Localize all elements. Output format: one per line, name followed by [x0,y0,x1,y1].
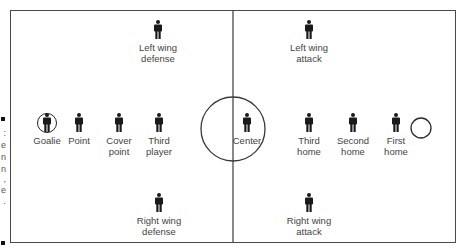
player-center: Center [212,113,282,146]
person-icon [304,193,314,212]
cropped-margin-text: : e n n , e . [0,0,8,252]
player-third-player: Third player [124,113,194,157]
margin-square-marker [1,117,5,121]
person-icon [153,20,163,39]
player-label: Left wing defense [123,42,193,64]
person-icon [348,113,358,132]
margin-fragment: , [0,175,6,184]
margin-fragment: n [0,165,6,174]
person-icon [154,113,164,132]
person-icon [242,113,252,132]
person-icon [154,193,164,212]
player-label: Right wing defense [124,215,194,237]
margin-fragment: n [0,153,6,162]
margin-fragment: e [0,186,6,195]
player-left-wing-defense: Left wing defense [123,20,193,64]
player-label: Third player [124,135,194,157]
player-label: Left wing attack [274,42,344,64]
player-first-home: First home [361,113,431,157]
player-label: First home [361,135,431,157]
person-icon [304,113,314,132]
margin-fragment: . [0,197,6,206]
person-icon [304,20,314,39]
margin-square-marker [1,241,5,245]
person-icon [74,113,84,132]
margin-fragment: e [0,141,6,150]
player-left-wing-attack: Left wing attack [274,20,344,64]
margin-fragment: : [0,129,6,138]
person-icon [391,113,401,132]
person-icon [114,113,124,132]
player-right-wing-defense: Right wing defense [124,193,194,237]
player-label: Right wing attack [274,215,344,237]
player-right-wing-attack: Right wing attack [274,193,344,237]
player-label: Center [212,135,282,146]
